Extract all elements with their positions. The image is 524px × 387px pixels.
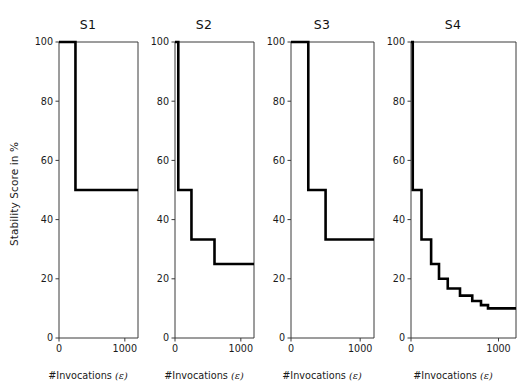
y-tick-label: 80 [393, 96, 405, 107]
plot-area-s2: 02040608010001000 [146, 0, 262, 387]
y-tick-label: 0 [399, 332, 405, 343]
subplot-panel-s4: S4 #Invocations (ε) 02040608010001000 [382, 0, 524, 387]
y-tick-label: 20 [393, 273, 405, 284]
step-series-s4 [411, 42, 516, 308]
x-tick-label: 0 [288, 343, 294, 354]
x-tick-label: 0 [408, 343, 414, 354]
y-tick-label: 40 [273, 214, 285, 225]
y-tick-label: 60 [273, 155, 285, 166]
y-tick-label: 0 [47, 332, 53, 343]
y-tick-label: 60 [393, 155, 405, 166]
plot-area-s3: 02040608010001000 [262, 0, 382, 387]
y-tick-label: 80 [157, 96, 169, 107]
y-tick-label: 20 [41, 273, 53, 284]
y-tick-label: 100 [387, 36, 405, 47]
x-tick-label: 0 [172, 343, 178, 354]
y-tick-label: 100 [267, 36, 285, 47]
y-tick-label: 100 [151, 36, 169, 47]
step-series-s1 [59, 42, 138, 190]
plot-area-s4: 02040608010001000 [382, 0, 524, 387]
y-tick-label: 0 [163, 332, 169, 343]
y-tick-label: 60 [41, 155, 53, 166]
plot-area-s1: 02040608010001000 [30, 0, 146, 387]
y-tick-label: 20 [273, 273, 285, 284]
y-tick-label: 40 [157, 214, 169, 225]
y-tick-label: 20 [157, 273, 169, 284]
x-tick-label: 1000 [113, 343, 137, 354]
y-tick-label: 80 [41, 96, 53, 107]
y-tick-label: 40 [41, 214, 53, 225]
y-axis-label: Stability Score in % [2, 0, 26, 387]
y-tick-label: 40 [393, 214, 405, 225]
subplot-panel-s2: S2 #Invocations (ε) 02040608010001000 [146, 0, 262, 387]
y-tick-label: 60 [157, 155, 169, 166]
axis-spines [291, 42, 374, 338]
subplot-panel-s3: S3 #Invocations (ε) 02040608010001000 [262, 0, 382, 387]
subplot-panel-s1: S1 #Invocations (ε) 02040608010001000 [30, 0, 146, 387]
axis-spines [411, 42, 516, 338]
x-tick-label: 1000 [486, 343, 510, 354]
x-tick-label: 1000 [229, 343, 253, 354]
x-tick-label: 0 [56, 343, 62, 354]
y-tick-label: 100 [35, 36, 53, 47]
y-tick-label: 80 [273, 96, 285, 107]
x-tick-label: 1000 [348, 343, 372, 354]
y-tick-label: 0 [279, 332, 285, 343]
figure-root: Stability Score in % S1 #Invocations (ε)… [0, 0, 524, 387]
step-series-s3 [291, 42, 374, 239]
step-series-s2 [175, 42, 254, 264]
